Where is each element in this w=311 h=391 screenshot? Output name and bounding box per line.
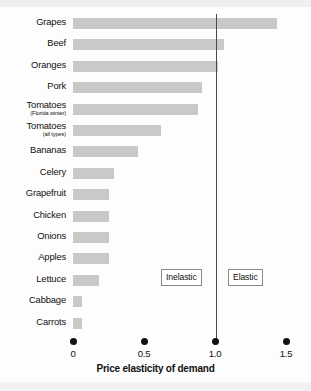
unit-elasticity-reference-line xyxy=(216,14,217,341)
bar-label: Grapes xyxy=(0,17,66,27)
table-row: Pork xyxy=(0,81,311,95)
bar-label: Lettuce xyxy=(0,274,66,284)
bar-label: Chicken xyxy=(0,210,66,220)
table-row: Beef xyxy=(0,38,311,52)
axis-tick-dot xyxy=(283,338,290,345)
bar xyxy=(73,189,109,200)
bar-label: Pork xyxy=(0,81,66,91)
table-row: Celery xyxy=(0,167,311,181)
bar xyxy=(73,253,109,264)
bar-label-sub: (all types) xyxy=(0,131,66,137)
table-row: Oranges xyxy=(0,60,311,74)
bar-label: Apples xyxy=(0,252,66,262)
table-row: Apples xyxy=(0,252,311,266)
bar-label: Bananas xyxy=(0,145,66,155)
bar xyxy=(73,211,109,222)
table-row: Tomatoes(Florida winter) xyxy=(0,103,311,117)
bar xyxy=(73,125,161,136)
bar xyxy=(73,18,277,29)
bar xyxy=(73,232,109,243)
bar xyxy=(73,82,202,93)
axis-tick-dot xyxy=(212,338,219,345)
bar-label: Beef xyxy=(0,38,66,48)
price-elasticity-bar-chart: GrapesBeefOrangesPorkTomatoes(Florida wi… xyxy=(0,0,311,391)
bar xyxy=(73,39,224,50)
axis-tick-dot xyxy=(141,338,148,345)
annotation-elastic: Elastic xyxy=(228,269,263,286)
bar-label: Onions xyxy=(0,231,66,241)
axis-tick-label: 0.5 xyxy=(138,348,151,359)
axis-tick-label: 0 xyxy=(70,348,75,359)
bar xyxy=(73,296,82,307)
axis-tick-label: 1.0 xyxy=(209,348,222,359)
bar-label: Cabbage xyxy=(0,295,66,305)
bar-label: Grapefruit xyxy=(0,188,66,198)
bar-label: Oranges xyxy=(0,60,66,70)
table-row: Bananas xyxy=(0,145,311,159)
bar-label: Celery xyxy=(0,167,66,177)
table-row: Chicken xyxy=(0,210,311,224)
bar xyxy=(73,61,218,72)
bar xyxy=(73,104,198,115)
bar xyxy=(73,146,138,157)
bar xyxy=(73,318,82,329)
bar-label: Tomatoes(all types) xyxy=(0,121,66,137)
table-row: Grapes xyxy=(0,17,311,31)
table-row: Lettuce xyxy=(0,274,311,288)
bar-label: Tomatoes(Florida winter) xyxy=(0,100,66,116)
bar-label: Carrots xyxy=(0,317,66,327)
chart-page: GrapesBeefOrangesPorkTomatoes(Florida wi… xyxy=(0,0,311,391)
bar xyxy=(73,275,99,286)
table-row: Carrots xyxy=(0,317,311,331)
annotation-inelastic: Inelastic xyxy=(161,269,202,286)
table-row: Onions xyxy=(0,231,311,245)
table-row: Grapefruit xyxy=(0,188,311,202)
bar-label-sub: (Florida winter) xyxy=(0,110,66,116)
axis-tick-dot xyxy=(70,338,77,345)
bar xyxy=(73,168,114,179)
axis-tick-label: 1.5 xyxy=(280,348,293,359)
table-row: Tomatoes(all types) xyxy=(0,124,311,138)
table-row: Cabbage xyxy=(0,295,311,309)
x-axis-title: Price elasticity of demand xyxy=(0,363,311,374)
